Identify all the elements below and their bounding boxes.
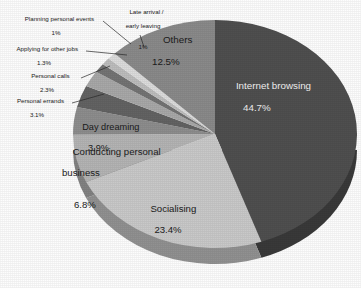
slice-label-conducting-personal-business-line2: business xyxy=(62,168,170,179)
pie-chart-figure: Planning personal events 1% Late arrival… xyxy=(0,0,361,288)
slice-label-planning-personal-events-pct: 1% xyxy=(8,30,104,37)
slice-label-applying-for-other-jobs-name: Applying for other jobs xyxy=(16,45,78,52)
slice-label-internet-browsing-pct: 44.7% xyxy=(243,103,333,114)
slice-label-others-name: Others xyxy=(163,34,192,45)
slice-label-personal-calls-name: Personal calls xyxy=(31,72,70,79)
slice-label-conducting-personal-business-line1: Conducting personal xyxy=(73,146,161,157)
slice-label-personal-errands: Personal errands 3.1% xyxy=(3,91,71,133)
slice-label-personal-errands-pct: 3.1% xyxy=(3,112,71,119)
slice-label-others: Others 12.5% xyxy=(152,24,224,90)
slice-label-late-arrival-line1: Late arrival / xyxy=(129,8,163,15)
slice-label-day-dreaming-name: Day dreaming xyxy=(82,122,139,132)
slice-label-internet-browsing-name: Internet browsing xyxy=(236,80,311,91)
slice-label-others-pct: 12.5% xyxy=(152,57,224,68)
slice-label-personal-errands-name: Personal errands xyxy=(17,97,64,104)
slice-label-planning-personal-events-name: Planning personal events xyxy=(25,15,95,22)
slice-label-internet-browsing: Internet browsing 44.7% xyxy=(225,70,333,136)
slice-label-socialising-name: Socialising xyxy=(150,203,196,214)
slice-label-socialising-pct: 23.4% xyxy=(120,225,216,236)
slice-label-socialising: Socialising 23.4% xyxy=(120,193,216,257)
